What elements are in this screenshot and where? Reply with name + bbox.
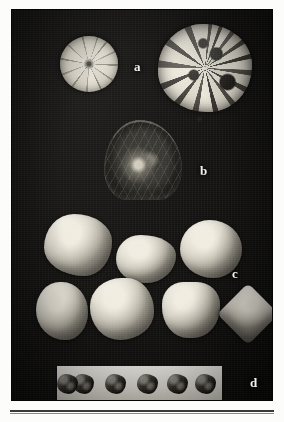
specimen-c-stone-6	[162, 282, 220, 338]
caption-rule-thin	[10, 413, 274, 414]
specimen-d-granule-3	[57, 374, 78, 394]
caption-rule-thick	[10, 410, 274, 412]
specimen-c-stone-7	[217, 283, 272, 345]
panel-label-a: a	[134, 60, 141, 73]
panel-label-c: c	[232, 267, 238, 280]
specimen-c-stone-5	[90, 278, 154, 340]
figure-page: a b c d	[0, 0, 284, 422]
specimen-c-stone-4	[36, 282, 88, 340]
panel-label-b: b	[200, 164, 207, 177]
specimen-b-drop-shaped-stone	[104, 120, 182, 200]
specimen-a-cross-section-small	[60, 36, 118, 92]
panel-label-d: d	[250, 376, 257, 389]
specimen-c-stone-1	[44, 214, 112, 276]
figure-plate-photograph: a b c d	[12, 10, 272, 400]
specimen-a-cross-section-large	[158, 24, 252, 112]
specimen-d-granule-3b	[137, 374, 158, 394]
specimen-d-granule-2	[105, 374, 126, 394]
specimen-d-granule-4	[167, 374, 188, 394]
figure-caption	[10, 415, 274, 422]
specimen-c-stone-2	[116, 235, 176, 283]
specimen-d-card-strip	[57, 366, 222, 400]
specimen-d-granule-5	[195, 374, 216, 394]
